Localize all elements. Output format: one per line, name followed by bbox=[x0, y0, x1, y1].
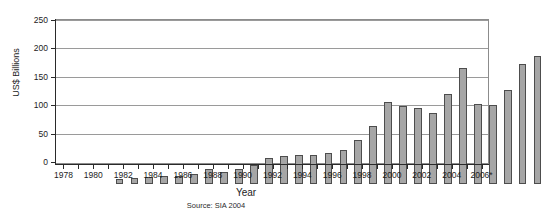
x-tick-mark-1998 bbox=[362, 165, 363, 169]
y-axis-line bbox=[55, 19, 56, 165]
bar bbox=[116, 179, 124, 184]
y-tick-label-250: 250 bbox=[22, 16, 48, 24]
y-tick-mark-100 bbox=[51, 105, 56, 106]
x-tick-mark-1985 bbox=[168, 165, 169, 169]
y-tick-label-150: 150 bbox=[22, 73, 48, 81]
x-tick-mark-1982 bbox=[123, 165, 124, 169]
x-tick-mark-1992 bbox=[273, 165, 274, 169]
x-tick-mark-1987 bbox=[198, 165, 199, 169]
x-tick-mark-1996 bbox=[332, 165, 333, 169]
bar bbox=[519, 64, 527, 184]
bar bbox=[459, 68, 467, 184]
y-tick-mark-200 bbox=[51, 48, 56, 49]
x-axis-title: Year bbox=[0, 188, 492, 198]
x-tick-mark-1995 bbox=[317, 165, 318, 169]
y-tick-mark-250 bbox=[51, 20, 56, 21]
x-tick-mark-1988 bbox=[213, 165, 214, 169]
x-tick-mark-2000 bbox=[392, 165, 393, 169]
x-tick-mark-2002 bbox=[422, 165, 423, 169]
x-tick-mark-1993 bbox=[287, 165, 288, 169]
source-note: Source: SIA 2004 bbox=[0, 202, 492, 210]
x-tick-mark-1981 bbox=[108, 165, 109, 169]
y-tick-mark-150 bbox=[51, 77, 56, 78]
x-tick-mark-1991 bbox=[258, 165, 259, 169]
bar bbox=[534, 56, 542, 184]
x-tick-mark-1983 bbox=[138, 165, 139, 169]
x-tick-mark-2003 bbox=[437, 165, 438, 169]
x-tick-mark-1978 bbox=[63, 165, 64, 169]
x-tick-mark-1986 bbox=[183, 165, 184, 169]
y-axis-title: US$ Billions bbox=[12, 28, 21, 118]
y-tick-label-0: 0 bbox=[22, 158, 48, 166]
y-tick-label-100: 100 bbox=[22, 101, 48, 109]
x-tick-mark-1980 bbox=[93, 165, 94, 169]
y-tick-label-50: 50 bbox=[22, 130, 48, 138]
x-tick-mark-2001 bbox=[407, 165, 408, 169]
x-tick-mark-1994 bbox=[302, 165, 303, 169]
y-tick-label-200: 200 bbox=[22, 44, 48, 52]
x-tick-mark-1984 bbox=[153, 165, 154, 169]
bar-series bbox=[112, 40, 545, 184]
x-tick-mark-1999 bbox=[377, 165, 378, 169]
y-tick-mark-0 bbox=[51, 162, 56, 163]
plot-area bbox=[55, 19, 489, 164]
x-tick-mark-1997 bbox=[347, 165, 348, 169]
gridline-250 bbox=[56, 20, 488, 21]
y-tick-mark-50 bbox=[51, 134, 56, 135]
x-tick-mark-2005 bbox=[467, 165, 468, 169]
x-tick-mark-1989 bbox=[228, 165, 229, 169]
x-tick-mark-1979 bbox=[78, 165, 79, 169]
x-tick-mark-2006* bbox=[482, 165, 483, 169]
x-tick-label-2006*: 2006* bbox=[465, 171, 499, 180]
x-tick-mark-2004 bbox=[452, 165, 453, 169]
bar bbox=[504, 90, 512, 184]
x-tick-mark-1990 bbox=[243, 165, 244, 169]
